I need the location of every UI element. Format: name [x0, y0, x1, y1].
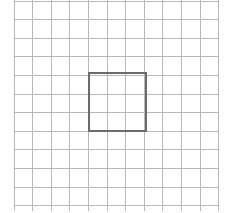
grid-canvas	[0, 0, 225, 213]
canvas-background	[0, 0, 225, 213]
grid-diagram	[0, 0, 225, 213]
